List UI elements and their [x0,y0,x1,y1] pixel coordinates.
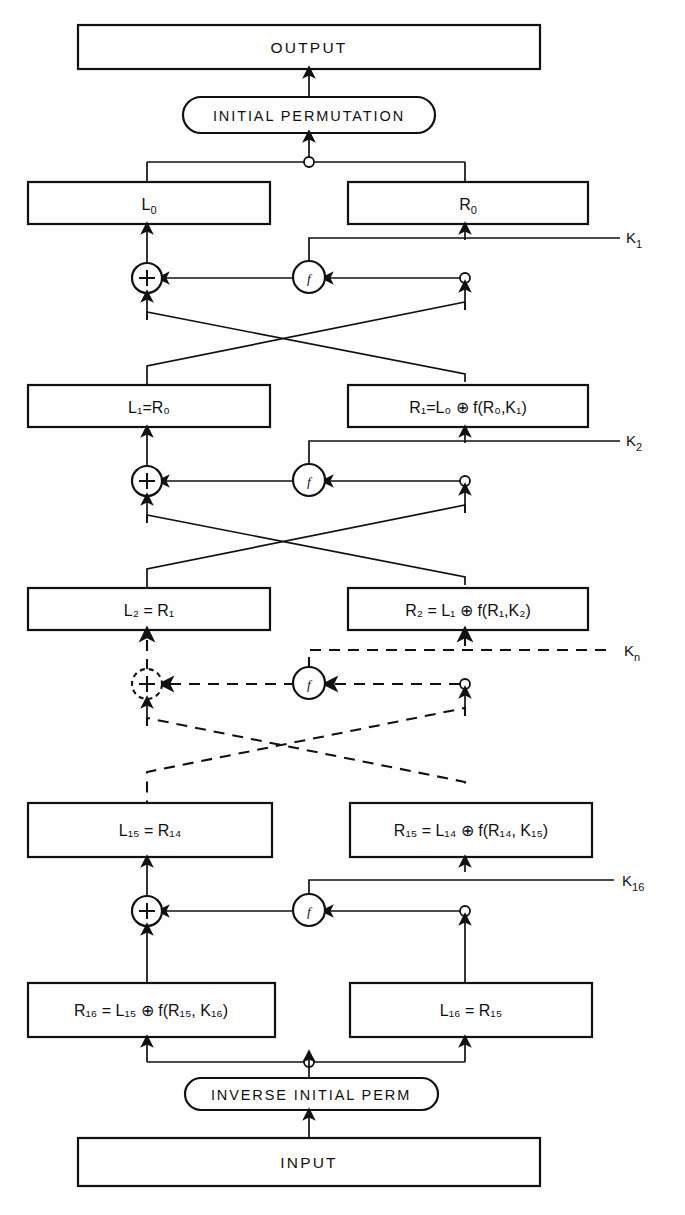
crossover-1 [147,302,465,385]
f-function-n: f [293,667,325,699]
svg-text:R0: R0 [459,196,477,216]
key-line-k1 [309,238,620,262]
xor-16 [132,896,162,926]
key-line-k2 [309,441,620,465]
key-label-k16: K16 [622,872,644,893]
input-box-label: INPUT [280,1154,338,1171]
xor-2 [132,466,162,496]
round-1-network: f [132,228,620,320]
f-function-2: f [293,464,325,496]
box-L15: L₁₅ = R₁₄ [28,803,272,857]
junction-dot-r2 [460,476,470,486]
box-L16-label: L₁₆ = R₁₅ [440,1002,502,1019]
box-L0-sub: 0 [150,204,156,216]
box-R16: R₁₆ = L₁₅ ⊕ f(R₁₅, K₁₆) [28,983,275,1037]
round-2-network: f [132,431,620,523]
box-L1-label: L₁=R₀ [128,399,170,416]
key-line-k16 [309,880,614,893]
input-box: INPUT [78,1138,540,1186]
svg-text:L0: L0 [141,196,156,216]
box-L15-label: L₁₅ = R₁₄ [119,822,181,839]
key-line-kn [309,650,612,668]
initial-permutation-box: INITIAL PERMUTATION [183,97,435,133]
box-R0-label: R [459,196,471,213]
box-R1: R₁=L₀ ⊕ f(R₀,K₁) [348,385,588,427]
box-R15-label: R₁₅ = L₁₄ ⊕ f(R₁₄, K₁₅) [394,822,548,839]
initial-permutation-label: INITIAL PERMUTATION [213,108,405,124]
junction-dot-r16 [460,906,470,916]
box-L16: L₁₆ = R₁₅ [350,983,592,1037]
box-R0: R0 [348,182,588,224]
des-decryption-diagram: OUTPUT INITIAL PERMUTATION L0 R0 [0,0,685,1215]
junction-dot-rn [460,679,470,689]
crossover-2 [147,505,465,588]
top-split-bus [147,157,465,182]
junction-dot-top [304,157,314,167]
bottom-split-bus [147,1041,465,1078]
crossover-n [147,708,465,803]
output-box-label: OUTPUT [271,39,348,56]
box-R0-sub: 0 [471,204,477,216]
box-L0: L0 [28,182,270,224]
box-R15: R₁₅ = L₁₄ ⊕ f(R₁₄, K₁₅) [350,803,592,857]
box-R2: R₂ = L₁ ⊕ f(R₁,K₂) [348,588,588,630]
inverse-initial-perm-box: INVERSE INITIAL PERM [185,1078,438,1110]
box-R16-label: R₁₆ = L₁₅ ⊕ f(R₁₅, K₁₆) [74,1002,228,1019]
xor-1 [132,263,162,293]
round-16-network: f [132,861,614,983]
box-R2-label: R₂ = L₁ ⊕ f(R₁,K₂) [405,602,531,619]
box-L1: L₁=R₀ [28,385,270,427]
box-L0-label: L [141,196,150,213]
round-n-network: f [132,634,612,726]
output-box: OUTPUT [78,25,540,69]
f-function-16: f [293,894,325,926]
box-R1-label: R₁=L₀ ⊕ f(R₀,K₁) [409,399,527,416]
xor-n [132,669,162,699]
box-L2-label: L₂ = R₁ [124,602,174,619]
f-function-1: f [293,261,325,293]
key-label-k2: K2 [626,432,642,453]
box-L2: L₂ = R₁ [28,588,270,630]
key-label-kn: Kn [624,642,640,663]
inverse-initial-perm-label: INVERSE INITIAL PERM [211,1087,411,1103]
key-label-k1: K1 [626,229,642,250]
junction-dot-r1 [460,273,470,283]
